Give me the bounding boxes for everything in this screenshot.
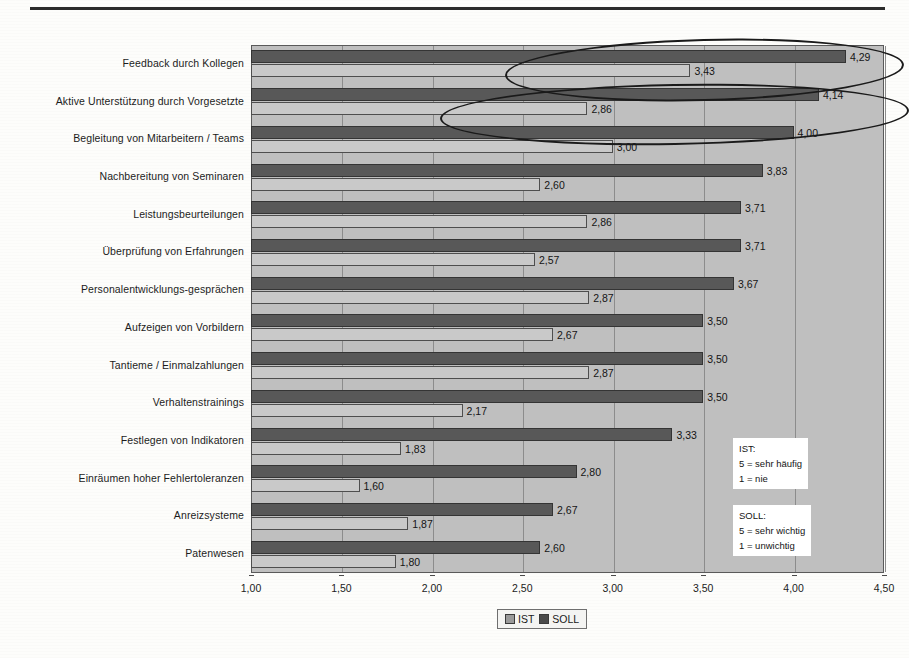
bar-value-label: 3,50 xyxy=(707,316,727,326)
x-axis-tick xyxy=(430,575,435,576)
x-axis-tick-label: 4,50 xyxy=(844,582,909,594)
bar-ist xyxy=(251,555,396,568)
note-line-2: 1 = unwichtig xyxy=(739,538,805,553)
plot-area xyxy=(251,45,884,573)
bar-ist xyxy=(251,442,401,455)
bar-value-label: 4,14 xyxy=(823,90,843,100)
x-axis-tick-label: 2,00 xyxy=(392,582,472,594)
x-axis-tick-label: 3,00 xyxy=(573,582,653,594)
category-label: Aktive Unterstützung durch Vorgesetzte xyxy=(56,96,244,107)
bar-value-label: 2,86 xyxy=(591,104,611,114)
bar-value-label: 3,00 xyxy=(617,142,637,152)
x-axis-tick-label: 4,00 xyxy=(754,582,834,594)
bar-value-label: 2,60 xyxy=(544,543,564,553)
bar-soll xyxy=(251,503,553,516)
bar-value-label: 1,80 xyxy=(400,557,420,567)
category-label: Überprüfung von Erfahrungen xyxy=(102,246,244,257)
category-label: Tantieme / Einmalzahlungen xyxy=(109,360,244,371)
bar-soll xyxy=(251,239,741,252)
category-label: Einräumen hoher Fehlertoleranzen xyxy=(79,473,244,484)
note-line-1: 5 = sehr wichtig xyxy=(739,523,805,538)
x-axis-tick-label: 2,50 xyxy=(482,582,562,594)
bar-value-label: 2,57 xyxy=(539,255,559,265)
bar-ist xyxy=(251,253,535,266)
bar-soll xyxy=(251,126,794,139)
x-axis-tick xyxy=(792,575,797,576)
bar-ist xyxy=(251,64,690,77)
bar-soll xyxy=(251,164,763,177)
category-label: Begleitung von Mitarbeitern / Teams xyxy=(73,133,244,144)
legend-swatch-ist xyxy=(505,614,515,624)
bar-value-label: 2,17 xyxy=(467,406,487,416)
category-label: Personalentwicklungs-gesprächen xyxy=(81,284,244,295)
bar-value-label: 1,83 xyxy=(405,444,425,454)
x-axis-tick xyxy=(611,575,616,576)
bar-soll xyxy=(251,541,540,554)
x-axis-tick-label: 3,50 xyxy=(663,582,743,594)
bar-value-label: 1,87 xyxy=(412,519,432,529)
bar-value-label: 3,67 xyxy=(738,279,758,289)
grouped-bar-chart: 1,001,502,002,503,003,504,004,50Feedback… xyxy=(0,0,909,658)
bar-value-label: 4,00 xyxy=(798,128,818,138)
bar-soll xyxy=(251,201,741,214)
x-axis-tick xyxy=(249,575,254,576)
category-label: Aufzeigen von Vorbildern xyxy=(125,322,244,333)
legend-swatch-soll xyxy=(539,614,549,624)
bar-ist xyxy=(251,140,613,153)
bar-soll xyxy=(251,390,703,403)
bar-soll xyxy=(251,352,703,365)
gridline xyxy=(795,46,796,572)
bar-value-label: 3,71 xyxy=(745,203,765,213)
x-axis-tick xyxy=(339,575,344,576)
bar-ist xyxy=(251,366,589,379)
bar-value-label: 2,86 xyxy=(591,217,611,227)
bar-value-label: 2,87 xyxy=(593,368,613,378)
category-label: Anreizsysteme xyxy=(174,510,244,521)
note-title: SOLL: xyxy=(739,508,805,523)
category-label: Leistungsbeurteilungen xyxy=(133,209,244,220)
category-label: Patenwesen xyxy=(185,548,244,559)
scale-note-box: IST:5 = sehr häufig1 = nie xyxy=(733,438,808,489)
bar-ist xyxy=(251,328,553,341)
legend-label-soll: SOLL xyxy=(552,613,579,625)
note-title: IST: xyxy=(739,441,802,456)
bar-value-label: 2,67 xyxy=(557,330,577,340)
bar-value-label: 3,43 xyxy=(694,66,714,76)
note-line-2: 1 = nie xyxy=(739,471,802,486)
bar-value-label: 2,60 xyxy=(544,180,564,190)
gridline xyxy=(885,46,886,572)
note-line-1: 5 = sehr häufig xyxy=(739,456,802,471)
bar-value-label: 2,67 xyxy=(557,505,577,515)
bar-ist xyxy=(251,291,589,304)
bar-value-label: 3,33 xyxy=(676,430,696,440)
legend-item-ist: IST xyxy=(505,613,534,625)
chart-legend: ISTSOLL xyxy=(497,609,587,629)
bar-ist xyxy=(251,404,463,417)
bar-value-label: 2,80 xyxy=(581,467,601,477)
bar-soll xyxy=(251,277,734,290)
bar-ist xyxy=(251,479,360,492)
bar-ist xyxy=(251,102,587,115)
bar-value-label: 3,83 xyxy=(767,166,787,176)
bar-ist xyxy=(251,517,408,530)
x-axis-tick-label: 1,00 xyxy=(211,582,291,594)
bar-ist xyxy=(251,215,587,228)
bar-ist xyxy=(251,178,540,191)
bar-soll xyxy=(251,88,819,101)
x-axis-tick xyxy=(520,575,525,576)
scale-note-box: SOLL:5 = sehr wichtig1 = unwichtig xyxy=(733,505,811,556)
bar-soll xyxy=(251,465,577,478)
category-label: Feedback durch Kollegen xyxy=(123,58,244,69)
legend-label-ist: IST xyxy=(518,613,534,625)
bar-soll xyxy=(251,428,672,441)
bar-value-label: 3,71 xyxy=(745,241,765,251)
bar-value-label: 2,87 xyxy=(593,293,613,303)
x-axis-tick xyxy=(701,575,706,576)
bar-soll xyxy=(251,314,703,327)
category-label: Verhaltenstrainings xyxy=(153,397,244,408)
bar-value-label: 1,60 xyxy=(364,481,384,491)
bar-value-label: 3,50 xyxy=(707,354,727,364)
bar-value-label: 3,50 xyxy=(707,392,727,402)
category-label: Festlegen von Indikatoren xyxy=(121,435,244,446)
x-axis-tick xyxy=(882,575,887,576)
